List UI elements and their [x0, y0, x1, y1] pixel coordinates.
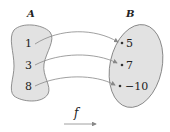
codomain-dot — [121, 64, 124, 67]
codomain-dot — [119, 85, 122, 88]
set-b-label: B — [125, 8, 134, 19]
function-mapping-diagram: A B 1 3 8 5 7 −10 f — [0, 0, 170, 132]
set-b-shape — [102, 20, 170, 113]
codomain-element: −10 — [125, 80, 148, 93]
codomain-dot — [121, 42, 124, 45]
function-label: f — [73, 106, 81, 120]
domain-element: 1 — [25, 37, 32, 50]
codomain-element: 7 — [126, 59, 133, 72]
codomain-element: 5 — [126, 37, 133, 50]
mapping-arrow — [35, 55, 117, 65]
domain-element: 8 — [25, 80, 32, 93]
domain-element: 3 — [25, 59, 32, 72]
set-a-label: A — [26, 8, 35, 19]
